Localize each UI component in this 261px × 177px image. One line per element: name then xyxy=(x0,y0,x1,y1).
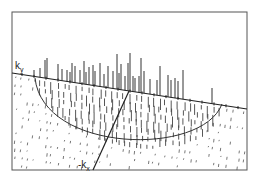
kx-axis-label: -kx xyxy=(78,160,90,172)
ky-axis-label: ky xyxy=(15,61,24,73)
kx-label-sub: x xyxy=(86,165,90,172)
kx-axis-line xyxy=(93,91,129,170)
k-space-diagram xyxy=(0,0,261,177)
ky-label-sub: y xyxy=(20,66,24,73)
